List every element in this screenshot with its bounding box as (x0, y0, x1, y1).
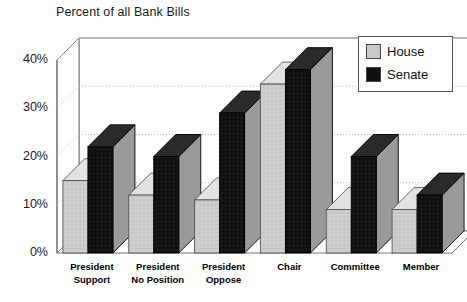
y-axis-tick-label: 30% (4, 100, 48, 114)
category-line-1: Chair (277, 261, 301, 272)
y-axis-tick-label: 40% (4, 52, 48, 66)
category-line-2: Oppose (169, 274, 279, 287)
legend-swatch-senate (366, 67, 381, 82)
bar (88, 125, 135, 253)
category-line-1: Member (403, 261, 439, 272)
bar (154, 135, 201, 254)
bar (220, 91, 267, 253)
legend-item-senate: Senate (366, 67, 428, 82)
legend-item-house: House (366, 44, 425, 59)
legend-swatch-house (366, 44, 381, 59)
legend: House Senate (358, 36, 453, 92)
legend-label-senate: Senate (387, 67, 428, 82)
x-axis-category-label: Member (366, 261, 467, 274)
bar (285, 48, 332, 253)
y-axis-tick-label: 10% (4, 197, 48, 211)
y-axis-tick-label: 20% (4, 149, 48, 163)
legend-label-house: House (387, 44, 425, 59)
y-axis-tick-label: 0% (4, 245, 48, 259)
bar-chart: Percent of all Bank Bills (0, 0, 467, 302)
bar (351, 135, 398, 254)
